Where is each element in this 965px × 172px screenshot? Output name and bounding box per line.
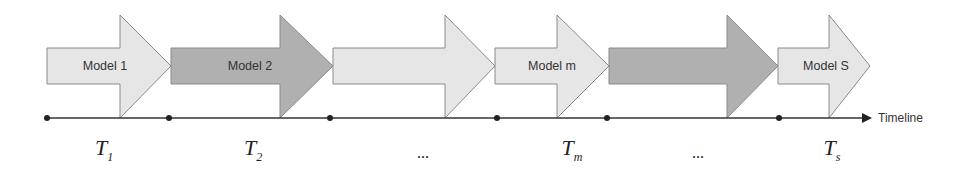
timeline-label: Timeline <box>878 111 923 125</box>
timeline-arrowhead-icon <box>862 113 872 123</box>
timeline-point <box>604 115 610 121</box>
arrow-label-model-m: Model m <box>528 59 576 73</box>
period-label-ts: Ts <box>824 135 841 164</box>
period-label-t1: T1 <box>95 135 113 164</box>
arrow-label-model-s: Model S <box>803 59 849 73</box>
arrow-intermediate-1 <box>333 15 495 118</box>
period-label-tm: Tm <box>562 135 583 164</box>
timeline-point <box>166 115 172 121</box>
period-ellipsis-2: ... <box>692 144 704 162</box>
arrow-label-model-1: Model 1 <box>83 59 127 73</box>
timeline-diagram <box>0 0 965 172</box>
timeline-point <box>494 115 500 121</box>
arrow-intermediate-2 <box>609 15 778 118</box>
timeline-point <box>327 115 333 121</box>
timeline-point <box>44 115 50 121</box>
period-label-t2: T2 <box>244 135 262 164</box>
timeline-point <box>776 115 782 121</box>
arrow-label-model-2: Model 2 <box>228 59 272 73</box>
period-ellipsis-1: ... <box>417 144 429 162</box>
